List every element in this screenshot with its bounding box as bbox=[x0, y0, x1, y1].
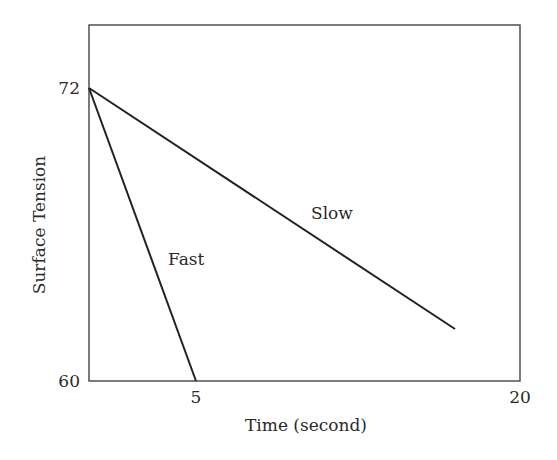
x-tick-20: 20 bbox=[509, 387, 531, 407]
y-tick-60: 60 bbox=[58, 371, 80, 391]
series-slow-line bbox=[89, 88, 455, 329]
plot-frame bbox=[89, 25, 520, 381]
fast-series-label: Fast bbox=[168, 249, 205, 269]
y-axis-label: Surface Tension bbox=[29, 156, 49, 295]
series-fast-line bbox=[89, 88, 196, 381]
y-tick-72: 72 bbox=[58, 78, 80, 98]
chart: 72 60 5 20 Time (second) Surface Tension… bbox=[0, 0, 557, 460]
x-tick-5: 5 bbox=[191, 387, 202, 407]
slow-series-label: Slow bbox=[311, 203, 353, 223]
x-axis-label: Time (second) bbox=[245, 415, 367, 435]
